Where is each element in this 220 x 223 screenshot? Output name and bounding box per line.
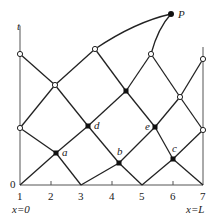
tick-label-7: 7 [200,190,206,202]
node-e [153,125,158,130]
tick-label-4: 4 [109,190,115,202]
boundary-node [17,125,22,130]
characteristic-lines [20,14,203,185]
point-label-c: c [172,142,177,154]
tick-label-3: 3 [78,190,84,202]
filled-nodes [54,11,176,166]
point-label-e: e [145,120,150,132]
node-d [86,124,91,129]
node-mid [124,89,129,94]
node-b [117,161,122,166]
boundary-node [200,56,205,61]
open-nodes [17,46,205,132]
open-node [148,51,153,56]
tick-label-1: 1 [17,190,23,202]
boundary-node [200,127,205,132]
right-boundary-label: x=L [185,203,204,215]
point-label-P: P [177,8,185,20]
open-node [92,46,97,51]
node-P [168,11,174,17]
point-label-d: d [94,119,100,131]
point-label-a: a [62,146,68,158]
origin-label: 0 [10,178,16,190]
point-label-b: b [117,145,123,157]
open-node [52,82,57,87]
open-node [177,94,182,99]
node-a [54,151,59,156]
characteristics-diagram: t P a d b e c 0 1 2 3 4 5 6 7 x=0 x=L [0,0,220,223]
tick-label-5: 5 [139,190,145,202]
tick-label-2: 2 [48,190,54,202]
node-c [171,157,176,162]
tick-label-6: 6 [170,190,176,202]
boundary-node [17,51,22,56]
left-boundary-label: x=0 [11,203,30,215]
